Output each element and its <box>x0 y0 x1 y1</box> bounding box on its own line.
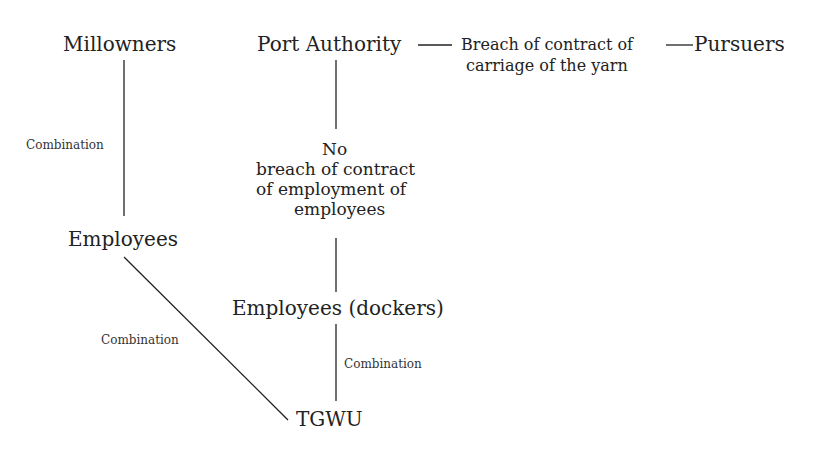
label-no-breach-line2: of employment of <box>256 180 406 199</box>
label-no-breach-line1: breach of contract <box>256 160 415 179</box>
node-employees-dockers: Employees (dockers) <box>232 297 444 319</box>
label-breach-line1: Breach of contract of <box>461 35 633 54</box>
label-no: No <box>322 140 347 159</box>
label-combination-right: Combination <box>344 357 422 371</box>
label-breach-line2: carriage of the yarn <box>466 56 628 75</box>
node-tgwu: TGWU <box>296 408 363 430</box>
label-combination-left: Combination <box>26 138 104 152</box>
node-employees: Employees <box>68 228 178 250</box>
node-pursuers: Pursuers <box>694 33 785 55</box>
label-combination-diagonal: Combination <box>101 333 179 347</box>
node-millowners: Millowners <box>63 33 176 55</box>
label-no-breach-line3: employees <box>294 200 385 219</box>
node-port-authority: Port Authority <box>257 33 401 55</box>
